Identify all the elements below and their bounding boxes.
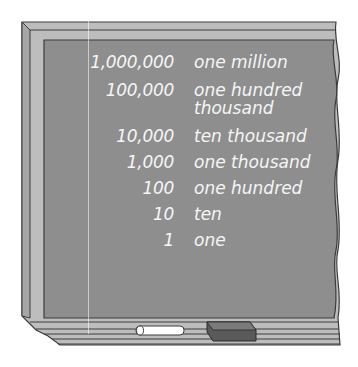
number-word: ten [194,204,222,224]
vertical-guide-line [88,14,89,334]
chalkboard-illustration: 1,000,000 one million 100,000 one hundre… [0,0,358,367]
number-value: 100 [142,178,174,198]
chalk-stick-icon [136,326,184,335]
number-value: 1 [163,230,174,250]
number-word: one thousand [194,152,311,172]
number-word: one [194,230,226,250]
number-word: one million [194,52,288,72]
number-word: one hundred [194,178,302,198]
number-word-continued: thousand [194,98,273,118]
number-value: 10 [153,204,174,224]
number-value: 1,000 [127,152,174,172]
number-word: ten thousand [194,126,307,146]
number-value: 100,000 [106,80,174,100]
number-word: one hundred [194,80,302,100]
eraser-icon [207,322,256,341]
chalkboard-frame [0,0,358,367]
number-value: 1,000,000 [90,52,174,72]
number-value: 10,000 [116,126,174,146]
